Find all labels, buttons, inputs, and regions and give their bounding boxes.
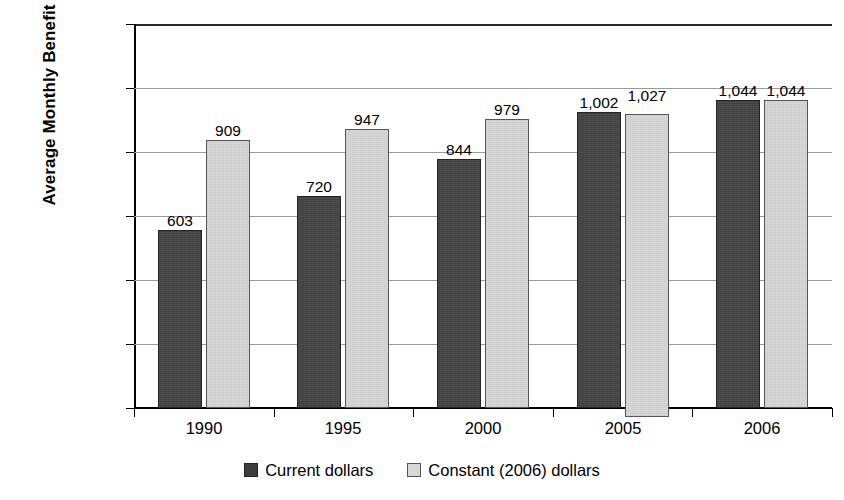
bar-value-label: 979	[494, 102, 520, 118]
x-axis-tick-mark	[413, 408, 414, 417]
bar-value-label: 1,002	[580, 95, 619, 111]
chart-legend: Current dollars Constant (2006) dollars	[0, 462, 844, 479]
bar-value-label: 947	[354, 112, 380, 128]
bar-2000-current: 844	[437, 159, 481, 408]
bar-2005-current: 1,002	[577, 112, 621, 408]
y-axis-title: Average Monthly Benefit	[40, 0, 60, 275]
y-axis-tick-mark	[126, 24, 134, 25]
y-axis-tick-mark	[126, 216, 134, 217]
bar-value-label: 1,027	[628, 88, 667, 104]
bar-value-label: 720	[306, 179, 332, 195]
y-axis-tick-mark	[126, 280, 134, 281]
bar-value-label: 909	[215, 123, 241, 139]
plot-area: 6039097209478449791,0021,0271,0441,044	[134, 24, 832, 408]
x-axis-tick-label: 1990	[144, 420, 264, 437]
y-axis-tick-mark	[126, 152, 134, 153]
x-axis-tick-mark	[274, 408, 275, 417]
bar-value-label: 844	[446, 142, 472, 158]
x-axis-tick-label: 1995	[283, 420, 403, 437]
x-axis-tick-mark	[134, 408, 135, 417]
x-axis-tick-mark	[692, 408, 693, 417]
y-axis-tick-mark	[126, 88, 134, 89]
x-axis-tick-mark	[832, 408, 833, 417]
bar-2006-current: 1,044	[716, 100, 760, 408]
legend-swatch-icon-current-dollars	[244, 463, 258, 477]
bar-1995-constant: 947	[345, 129, 389, 408]
bar-1990-current: 603	[158, 230, 202, 408]
legend-item-constant-dollars: Constant (2006) dollars	[407, 462, 600, 479]
legend-label-current-dollars: Current dollars	[265, 462, 373, 479]
legend-swatch-icon-constant-dollars	[407, 463, 421, 477]
bar-2000-constant: 979	[485, 119, 529, 408]
bar-value-label: 1,044	[767, 83, 806, 99]
plot-border-top	[134, 24, 832, 26]
x-axis-tick-label: 2000	[423, 420, 543, 437]
x-axis-tick-mark	[553, 408, 554, 417]
legend-label-constant-dollars: Constant (2006) dollars	[428, 462, 600, 479]
bar-2006-constant: 1,044	[764, 100, 808, 408]
bar-2005-constant: 1,027	[625, 114, 669, 417]
bar-1990-constant: 909	[206, 140, 250, 408]
y-axis-tick-mark	[126, 344, 134, 345]
bar-1995-current: 720	[297, 196, 341, 408]
x-axis-tick-label: 2006	[702, 420, 822, 437]
bar-value-label: 1,044	[719, 83, 758, 99]
bar-chart: Average Monthly Benefit $0$200$400$600$8…	[0, 0, 844, 500]
y-axis-tick-mark	[126, 408, 134, 409]
legend-item-current-dollars: Current dollars	[244, 462, 373, 479]
bar-value-label: 603	[167, 213, 193, 229]
x-axis-tick-label: 2005	[563, 420, 683, 437]
